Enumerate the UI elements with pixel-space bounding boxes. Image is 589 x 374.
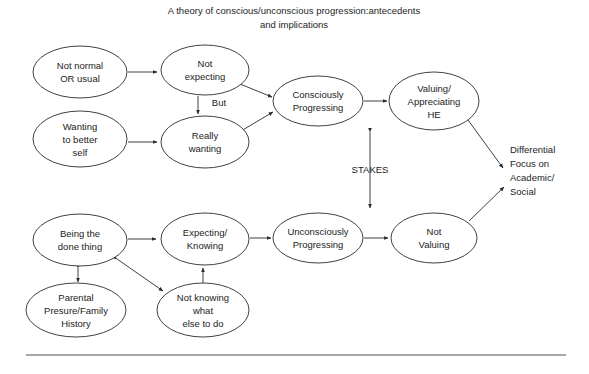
node-label-line-3: Academic/ bbox=[510, 172, 555, 183]
node-label-line-3: HE bbox=[427, 109, 440, 120]
node-expecting-knowing[interactable]: Expecting/ Knowing bbox=[161, 213, 249, 265]
node-shape bbox=[33, 46, 127, 98]
node-label-line-2: Knowing bbox=[187, 240, 223, 251]
node-parental-pressure-family-history[interactable]: Parental Presure/Family History bbox=[26, 283, 126, 337]
node-label-line-1: Not bbox=[198, 58, 213, 69]
node-label-line-3: History bbox=[61, 318, 91, 329]
node-label-line-2: wanting bbox=[188, 143, 222, 154]
node-consciously-progressing[interactable]: Consciously Progressing bbox=[273, 76, 363, 126]
node-shape bbox=[161, 116, 249, 168]
node-shape bbox=[161, 45, 249, 95]
edge-not-valuing-to-differential-focus bbox=[469, 187, 504, 221]
node-label-line-1: Valuing/ bbox=[417, 83, 451, 94]
node-not-knowing-what-else-to-do[interactable]: Not knowing what else to do bbox=[157, 283, 249, 337]
edge-label-stakes: STAKES bbox=[352, 164, 389, 175]
node-not-valuing[interactable]: Not Valuing bbox=[391, 213, 477, 263]
node-label-line-2: Valuing bbox=[419, 239, 450, 250]
edge-label-but: But bbox=[212, 97, 227, 108]
node-label-line-2: what bbox=[192, 305, 213, 316]
node-shape bbox=[33, 214, 127, 266]
node-label-line-2: Progressing bbox=[293, 239, 344, 250]
node-label-line-3: else to do bbox=[182, 318, 223, 329]
edge-being-done-thing-to-not-knowing bbox=[117, 259, 163, 291]
node-label-line-1: Expecting/ bbox=[183, 227, 228, 238]
node-label-line-1: Not knowing bbox=[177, 292, 229, 303]
node-label-line-1: Differential bbox=[510, 144, 555, 155]
node-wanting-to-better-self[interactable]: Wanting to better self bbox=[33, 111, 127, 167]
node-shape bbox=[273, 76, 363, 126]
node-label-line-4: Social bbox=[510, 186, 536, 197]
node-label-line-2: Presure/Family bbox=[44, 305, 108, 316]
node-label-line-2: Progressing bbox=[293, 102, 344, 113]
node-label-line-1: Consciously bbox=[292, 89, 343, 100]
node-really-wanting[interactable]: Really wanting bbox=[161, 116, 249, 168]
node-shape bbox=[161, 213, 249, 265]
node-shape bbox=[391, 213, 477, 263]
node-label-line-1: Really bbox=[192, 130, 219, 141]
node-label-line-1: Unconsciously bbox=[287, 226, 348, 237]
page-title-line-1: A theory of conscious/unconscious progre… bbox=[168, 5, 421, 16]
node-being-the-done-thing[interactable]: Being the done thing bbox=[33, 214, 127, 266]
node-label-line-1: Wanting bbox=[63, 121, 98, 132]
page-title-line-2: and implications bbox=[260, 19, 328, 30]
node-label-line-2: to better bbox=[63, 134, 98, 145]
node-label-line-2: OR usual bbox=[60, 73, 100, 84]
page-title: A theory of conscious/unconscious progre… bbox=[168, 5, 421, 30]
node-label-line-1: Parental bbox=[58, 292, 93, 303]
node-not-expecting[interactable]: Not expecting bbox=[161, 45, 249, 95]
node-layer: Not normal OR usual Wanting to better se… bbox=[26, 45, 555, 337]
node-not-normal-or-usual[interactable]: Not normal OR usual bbox=[33, 46, 127, 98]
node-label-line-3: self bbox=[73, 147, 88, 158]
node-label-line-1: Not bbox=[427, 226, 442, 237]
node-differential-focus-on-academic-social: Differential Focus on Academic/ Social bbox=[510, 144, 555, 197]
node-unconsciously-progressing[interactable]: Unconsciously Progressing bbox=[273, 213, 363, 263]
node-label-line-2: done thing bbox=[58, 241, 102, 252]
node-label-line-2: expecting bbox=[185, 71, 226, 82]
node-label-line-2: Appreciating bbox=[408, 96, 461, 107]
node-label-line-1: Being the bbox=[60, 228, 100, 239]
edge-really-wanting-to-consciously-progressing bbox=[241, 112, 273, 131]
node-label-line-1: Not normal bbox=[57, 60, 103, 71]
theory-flowchart: A theory of conscious/unconscious progre… bbox=[0, 0, 589, 374]
node-shape bbox=[273, 213, 363, 263]
edge-not-expecting-to-consciously-progressing bbox=[240, 84, 272, 97]
node-valuing-appreciating-he[interactable]: Valuing/ Appreciating HE bbox=[389, 72, 479, 130]
node-label-line-2: Focus on bbox=[510, 158, 549, 169]
edge-valuing-he-to-differential-focus bbox=[468, 120, 503, 168]
